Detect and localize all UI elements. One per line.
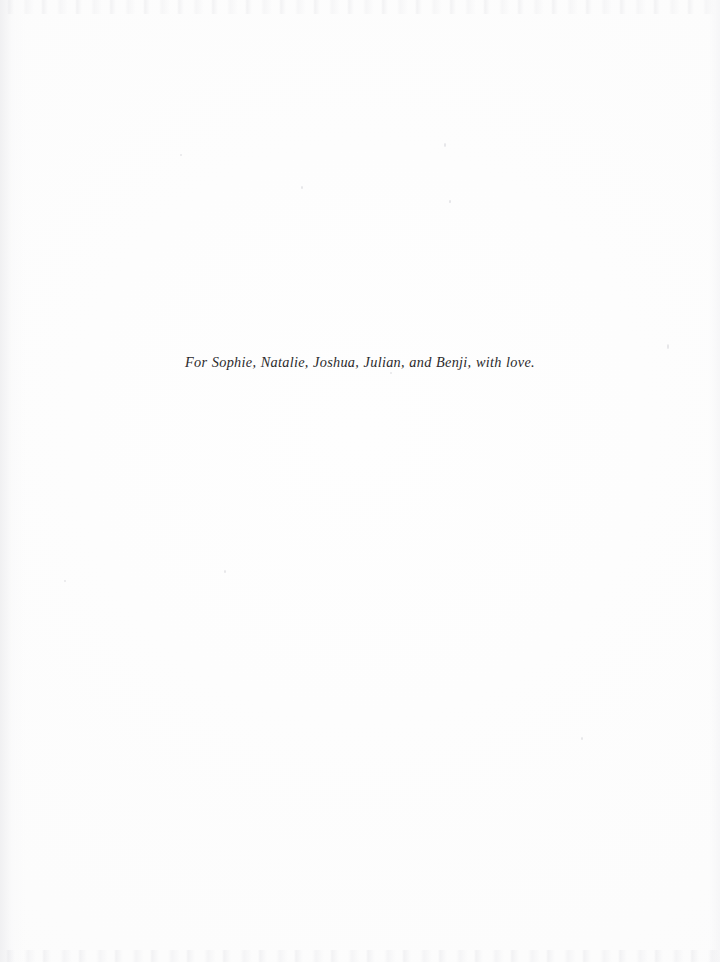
scan-speck: [180, 154, 182, 156]
scan-speck: [390, 372, 392, 374]
outer-edge-shadow: [698, 0, 720, 962]
book-page: For Sophie, Natalie, Joshua, Julian, and…: [0, 0, 720, 962]
scan-speck: [581, 737, 583, 740]
scan-speck: [449, 200, 451, 203]
scan-noise-top: [0, 0, 720, 14]
dedication-block: For Sophie, Natalie, Joshua, Julian, and…: [0, 352, 720, 372]
gutter-shadow: [0, 0, 26, 962]
paper-tone-overlay: [0, 0, 720, 962]
scan-speck: [224, 570, 226, 573]
scan-noise-bottom: [0, 950, 720, 962]
scan-speck: [667, 344, 669, 349]
scan-speck: [444, 143, 446, 147]
dedication-text: For Sophie, Natalie, Joshua, Julian, and…: [185, 352, 535, 372]
scan-speck: [301, 186, 303, 189]
scan-speck: [64, 580, 66, 582]
